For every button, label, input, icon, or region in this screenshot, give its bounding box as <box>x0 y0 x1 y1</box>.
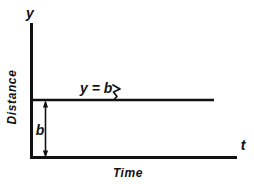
y-axis-title: Distance <box>5 70 19 125</box>
curve-leader-hook-icon <box>113 85 120 100</box>
b-measure-arrowhead-up <box>43 101 48 108</box>
curve-label-y-equals-b: y = b <box>79 80 113 96</box>
x-axis-title: Time <box>113 166 143 180</box>
y-axis-symbol: y <box>25 5 35 21</box>
b-offset-label: b <box>36 122 45 138</box>
x-axis-symbol: t <box>241 137 247 153</box>
chart-svg: y t y = b b Time Distance <box>0 0 254 184</box>
figure-canvas: y t y = b b Time Distance <box>0 0 254 184</box>
